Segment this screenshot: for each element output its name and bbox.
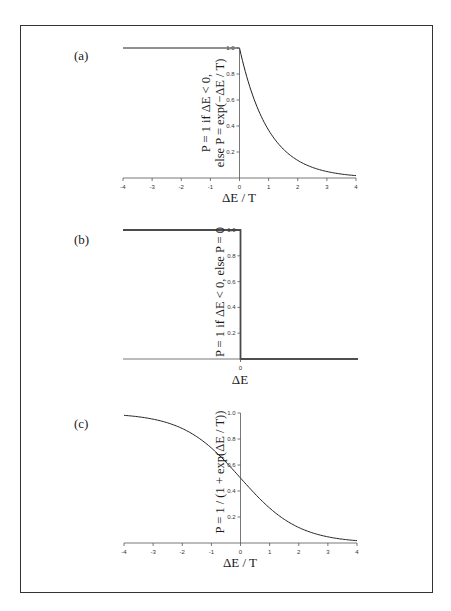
panel-b: (b) 00.20.40.60.81.0 P = 1 if ΔE < 0, el… bbox=[74, 227, 358, 387]
x-tick-label: -3 bbox=[150, 549, 156, 555]
panel-c-axes: -4-3-2-1012340.20.40.60.81.0 bbox=[121, 410, 359, 555]
x-tick-label: -3 bbox=[149, 184, 155, 190]
y-tick-label: 1.0 bbox=[227, 410, 236, 416]
y-tick-label: 0.8 bbox=[226, 71, 235, 77]
panel-c-xlabel: ΔE / T bbox=[223, 555, 257, 570]
x-tick-label: 4 bbox=[354, 184, 358, 190]
panel-a: (a) -4-3-2-1012340.20.40.60.81.0 P = 1 i… bbox=[74, 45, 358, 205]
x-tick-label: -2 bbox=[180, 549, 186, 555]
y-tick-label: 0.4 bbox=[227, 304, 236, 310]
panel-a-ylabel-1: P = 1 if ΔE < 0, bbox=[199, 74, 213, 152]
y-tick-label: 0.2 bbox=[226, 149, 235, 155]
panel-b-axes: 00.20.40.60.81.0 bbox=[123, 227, 358, 371]
x-tick-label: 0 bbox=[239, 365, 243, 371]
x-tick-label: -1 bbox=[208, 184, 214, 190]
panel-a-label: (a) bbox=[74, 48, 88, 63]
figure-canvas: (a) -4-3-2-1012340.20.40.60.81.0 P = 1 i… bbox=[0, 0, 451, 611]
y-tick-label: 0.8 bbox=[227, 436, 236, 442]
y-tick-label: 0.4 bbox=[226, 123, 235, 129]
panel-b-ylabel: P = 1 if ΔE < 0, else P = 0 bbox=[213, 227, 227, 357]
y-tick-label: 0.6 bbox=[226, 97, 235, 103]
y-tick-label: 0.2 bbox=[227, 514, 236, 520]
y-tick-label: 0.8 bbox=[227, 253, 236, 259]
panel-a-ylabel-2: else P = exp(−ΔE / T) bbox=[213, 59, 227, 168]
panel-a-xlabel: ΔE / T bbox=[222, 190, 256, 205]
x-tick-label: 2 bbox=[297, 549, 301, 555]
y-tick-label: 1.0 bbox=[226, 45, 235, 51]
x-tick-label: 4 bbox=[355, 549, 359, 555]
panel-c-ylabel: P = 1 / (1 + exp(ΔE / T)) bbox=[213, 411, 227, 534]
x-tick-label: 1 bbox=[268, 549, 272, 555]
panel-c-label: (c) bbox=[74, 416, 88, 431]
x-tick-label: 2 bbox=[296, 184, 300, 190]
y-tick-label: 0.6 bbox=[227, 279, 236, 285]
panel-a-axes: -4-3-2-1012340.20.40.60.81.0 bbox=[120, 45, 358, 190]
x-tick-label: -4 bbox=[121, 549, 127, 555]
panel-b-xlabel: ΔE bbox=[232, 372, 248, 387]
x-tick-label: 3 bbox=[325, 184, 329, 190]
y-tick-label: 0.6 bbox=[227, 462, 236, 468]
y-tick-label: 0.2 bbox=[227, 330, 236, 336]
x-tick-label: 3 bbox=[326, 549, 330, 555]
panel-c: (c) -4-3-2-1012340.20.40.60.81.0 P = 1 /… bbox=[74, 410, 359, 570]
x-tick-label: 1 bbox=[267, 184, 271, 190]
x-tick-label: -4 bbox=[120, 184, 126, 190]
x-tick-label: -1 bbox=[209, 549, 215, 555]
y-tick-label: 1.0 bbox=[227, 227, 236, 233]
x-tick-label: -2 bbox=[179, 184, 185, 190]
y-tick-label: 0.4 bbox=[227, 488, 236, 494]
panel-b-label: (b) bbox=[74, 232, 89, 247]
